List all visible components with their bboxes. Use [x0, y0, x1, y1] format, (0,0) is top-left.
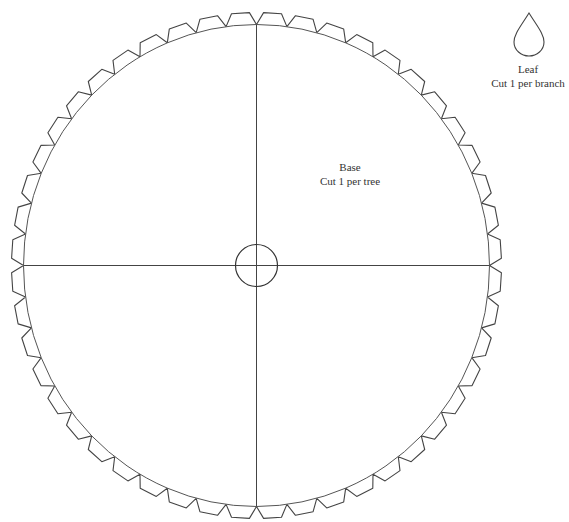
leaf-title: Leaf	[487, 62, 569, 76]
leaf-instruction: Cut 1 per branch	[487, 76, 569, 90]
template-diagram	[0, 0, 569, 522]
leaf-label: Leaf Cut 1 per branch	[487, 62, 569, 90]
base-instruction: Cut 1 per tree	[290, 174, 410, 188]
base-label: Base Cut 1 per tree	[290, 160, 410, 188]
base-title: Base	[290, 160, 410, 174]
leaf-shape-icon	[514, 13, 544, 56]
